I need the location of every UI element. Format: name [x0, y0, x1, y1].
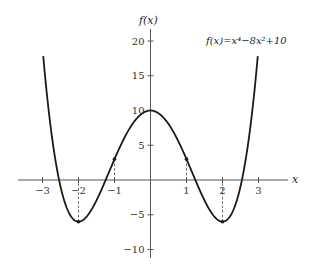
function-formula-label: f(x)=x⁴−8x²+10	[205, 35, 287, 46]
y-axis-label: f(x)	[138, 14, 158, 27]
x-axis-label: x	[292, 173, 299, 186]
y-tick-label: −10	[123, 244, 144, 255]
y-tick-label: 5	[138, 140, 144, 151]
ticks: −3−2−1123−10−55101520	[35, 36, 262, 256]
x-tick-label: 3	[255, 185, 261, 196]
y-tick-label: −5	[130, 209, 145, 220]
marked-point	[221, 220, 225, 224]
marked-point	[113, 157, 117, 161]
y-tick-label: 20	[132, 36, 145, 47]
x-tick-label: −1	[107, 185, 122, 196]
x-tick-label: 1	[183, 185, 189, 196]
marked-point	[185, 157, 189, 161]
x-tick-label: −3	[35, 185, 50, 196]
y-tick-label: 15	[132, 70, 145, 81]
marked-point	[77, 220, 81, 224]
y-tick-label: 10	[132, 105, 145, 116]
function-plot: −3−2−1123−10−55101520 f(x) x f(x)=x⁴−8x²…	[0, 0, 319, 272]
